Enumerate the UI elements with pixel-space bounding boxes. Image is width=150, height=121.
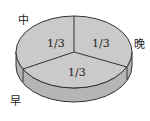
slice-label-evening: 1/3	[92, 37, 110, 50]
category-label-middle: 中	[18, 14, 29, 27]
category-label-morning: 早	[10, 95, 21, 108]
slice-label-middle: 1/3	[47, 37, 65, 50]
slice-label-morning: 1/3	[68, 66, 86, 79]
pie-chart: 1/3 1/3 1/3 中 晚 早	[0, 0, 150, 121]
category-label-evening: 晚	[134, 38, 145, 51]
